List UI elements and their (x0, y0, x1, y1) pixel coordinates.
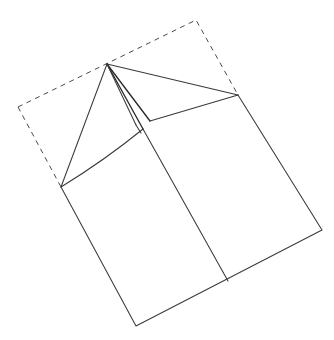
figure-canvas: Paper folding diagram Line drawing of a … (0, 0, 334, 340)
origami-fold-diagram: Paper folding diagram Line drawing of a … (0, 0, 334, 340)
background-rect (0, 0, 334, 340)
